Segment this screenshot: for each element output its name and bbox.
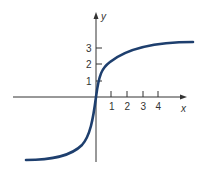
x-tick-label-4: 4 [156, 101, 162, 112]
chart: 1 2 3 4 1 2 3 x y [0, 0, 203, 174]
x-tick-label-2: 2 [125, 101, 131, 112]
y-tick-label-3: 3 [86, 43, 92, 54]
y-axis-arrow-icon [94, 12, 99, 19]
y-tick-label-1: 1 [86, 76, 92, 87]
x-axis-arrow-icon [180, 95, 187, 100]
x-axis-label: x [180, 103, 187, 114]
x-ticks [111, 91, 158, 97]
x-tick-label-1: 1 [109, 101, 115, 112]
x-tick-label-3: 3 [141, 101, 147, 112]
y-axis-label: y [100, 11, 107, 22]
y-tick-label-2: 2 [86, 59, 92, 70]
